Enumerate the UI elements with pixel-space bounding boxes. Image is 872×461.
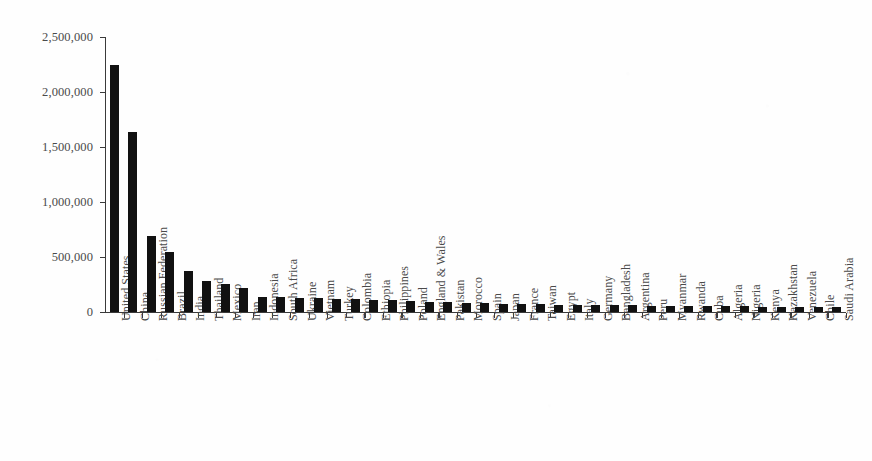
x-axis-tick-label: Myanmar: [675, 274, 690, 321]
bar[interactable]: [480, 303, 489, 312]
bar[interactable]: [814, 307, 823, 312]
y-axis-tick-label: 1,500,000: [0, 140, 93, 155]
bar[interactable]: [721, 306, 730, 312]
bar[interactable]: [147, 236, 156, 312]
bar[interactable]: [202, 281, 211, 312]
bar[interactable]: [554, 305, 563, 312]
y-axis-tick-label: 2,000,000: [0, 85, 93, 100]
bar[interactable]: [332, 299, 341, 312]
bar[interactable]: [369, 300, 378, 312]
bar[interactable]: [666, 306, 675, 312]
x-axis-tick-label: Algeria: [731, 284, 746, 321]
bar[interactable]: [258, 297, 267, 312]
bar[interactable]: [795, 307, 804, 312]
bar[interactable]: [425, 302, 434, 312]
x-axis-tick-label: Venezuela: [805, 271, 820, 321]
bar[interactable]: [517, 304, 526, 312]
x-axis-tick-label: Colombia: [360, 273, 375, 321]
x-axis-tick-label: Argentina: [638, 272, 653, 321]
bar[interactable]: [536, 304, 545, 312]
x-axis-tick-label: Rwanda: [694, 281, 709, 321]
bar[interactable]: [221, 284, 230, 312]
bar[interactable]: [573, 305, 582, 312]
bar[interactable]: [462, 303, 471, 312]
bar-chart: 0500,0001,000,0001,500,0002,000,0002,500…: [0, 0, 872, 461]
bar[interactable]: [703, 306, 712, 312]
bar[interactable]: [165, 252, 174, 312]
bar[interactable]: [499, 304, 508, 312]
y-axis-tick: [100, 37, 105, 38]
x-axis-tick-label: Taiwan: [545, 285, 560, 321]
bar[interactable]: [628, 305, 637, 312]
bar[interactable]: [610, 305, 619, 312]
bar[interactable]: [110, 65, 119, 313]
x-axis-tick-label: Saudi Arabia: [842, 257, 857, 321]
bar[interactable]: [591, 305, 600, 312]
x-axis-tick-label: Nigeria: [749, 284, 764, 321]
bar[interactable]: [684, 306, 693, 312]
bar[interactable]: [777, 307, 786, 312]
x-axis-tick-label: Kenya: [768, 289, 783, 321]
y-axis-tick: [100, 202, 105, 203]
x-axis-tick-label: Morocco: [471, 277, 486, 321]
y-axis-tick: [100, 312, 105, 313]
y-axis-tick-label: 1,000,000: [0, 195, 93, 210]
bar[interactable]: [295, 298, 304, 312]
bar[interactable]: [647, 306, 656, 312]
y-axis-tick-label: 500,000: [0, 250, 93, 265]
bar[interactable]: [239, 288, 248, 312]
bar[interactable]: [314, 298, 323, 312]
bar[interactable]: [406, 301, 415, 312]
bar[interactable]: [128, 132, 137, 312]
y-axis-tick-label: 0: [0, 305, 93, 320]
bar[interactable]: [758, 307, 767, 313]
x-axis-tick-label: Philippines: [397, 266, 412, 321]
x-axis-tick-label: Kazakhstan: [786, 264, 801, 321]
bar[interactable]: [443, 302, 452, 312]
bar[interactable]: [388, 300, 397, 312]
x-axis-tick-label: Germany: [601, 276, 616, 321]
y-axis-tick-label: 2,500,000: [0, 30, 93, 45]
bar[interactable]: [276, 297, 285, 312]
bar[interactable]: [740, 306, 749, 312]
y-axis-tick: [100, 147, 105, 148]
x-axis-tick-label: Pakistan: [453, 280, 468, 321]
bar[interactable]: [832, 307, 841, 312]
y-axis-tick: [100, 92, 105, 93]
y-axis-line: [105, 37, 106, 313]
bar[interactable]: [351, 299, 360, 312]
x-axis-tick-label: Bangladesh: [619, 264, 634, 321]
y-axis-tick: [100, 257, 105, 258]
bar[interactable]: [184, 271, 193, 312]
